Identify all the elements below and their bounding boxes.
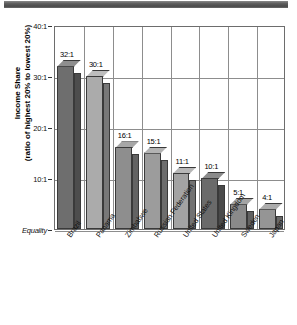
bar-russian-federation <box>144 153 161 230</box>
bar-top-face <box>57 60 81 67</box>
gridline-horizontal <box>55 27 284 28</box>
bar-panama <box>86 76 103 229</box>
y-axis-tick-label: 10:1 <box>33 175 47 184</box>
bar-value-label: 15:1 <box>147 137 161 146</box>
bar-value-label: 32:1 <box>60 50 74 59</box>
gridline-vertical <box>257 27 258 229</box>
bar-front-face <box>57 66 74 229</box>
bar-top-face <box>173 167 197 174</box>
bar-side-face <box>103 83 110 229</box>
bar-value-label: 4:1 <box>262 193 272 202</box>
bar-value-label: 30:1 <box>89 60 103 69</box>
bar-zimbabwe <box>115 147 132 229</box>
decorative-header-band <box>4 1 288 8</box>
bar-top-face <box>201 172 225 179</box>
bar-top-face <box>86 70 110 77</box>
chart-figure: Income Share (ratio of highest 20% to lo… <box>0 0 297 325</box>
bar-top-face <box>259 203 283 210</box>
y-axis-tick-mark <box>48 230 52 231</box>
gridline-vertical <box>228 27 229 229</box>
gridline-vertical <box>84 27 85 229</box>
gridline-vertical <box>199 27 200 229</box>
bar-side-face <box>74 73 81 229</box>
y-axis-tick-mark <box>48 77 52 78</box>
y-axis-tick-mark <box>48 179 52 180</box>
y-axis-tick-label: Equality <box>22 226 47 235</box>
y-axis-tick-label: 30:1 <box>33 73 47 82</box>
y-axis-tick-mark <box>48 128 52 129</box>
bar-top-face <box>144 147 168 154</box>
y-axis-tick-mark <box>48 26 52 27</box>
bar-value-label: 10:1 <box>204 162 218 171</box>
y-axis-tick-label: 40:1 <box>33 22 47 31</box>
bar-brazil <box>57 66 74 229</box>
bar-front-face <box>144 153 161 230</box>
bar-front-face <box>115 147 132 229</box>
bar-value-label: 11:1 <box>176 157 189 166</box>
bar-front-face <box>86 76 103 229</box>
plot-area: 32:130:116:115:111:110:15:14:1 <box>54 26 285 230</box>
bar-value-label: 16:1 <box>118 131 132 140</box>
y-axis-tick-label: 20:1 <box>33 124 47 133</box>
y-axis-ticks: 40:130:120:110:1Equality <box>0 26 52 230</box>
bar-top-face <box>115 141 139 148</box>
